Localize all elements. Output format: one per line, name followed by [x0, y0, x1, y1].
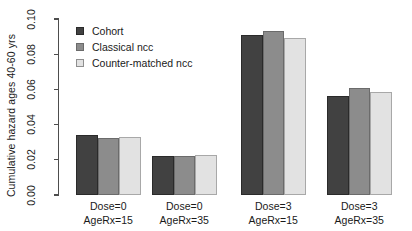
legend-item-classical-ncc[interactable]: Classical ncc: [76, 40, 192, 54]
legend-item-counter-matched-ncc[interactable]: Counter-matched ncc: [76, 56, 192, 70]
bar-classical-ncc-2[interactable]: [263, 31, 285, 195]
legend-swatch-icon: [76, 59, 84, 67]
legend-item-label: Counter-matched ncc: [92, 58, 192, 69]
x-axis-group-label: Dose=0AgeRx=35: [139, 199, 229, 227]
bar-counter-matched-ncc-2[interactable]: [284, 38, 306, 195]
y-tick-label-text: 0.10: [25, 0, 38, 42]
bar-group: [327, 19, 392, 195]
y-tick-label: 0.00: [8, 189, 54, 202]
bar-counter-matched-ncc-3[interactable]: [370, 92, 392, 195]
bar-group: [241, 19, 306, 195]
legend-item-cohort[interactable]: Cohort: [76, 24, 192, 38]
bar-cohort-1[interactable]: [152, 156, 174, 195]
legend-swatch-icon: [76, 43, 84, 51]
y-tick-mark: [54, 18, 59, 19]
x-axis-group-label-line-0: Dose=3: [314, 199, 404, 213]
legend: CohortClassical nccCounter-matched ncc: [76, 24, 192, 72]
legend-swatch-icon: [76, 27, 84, 35]
bar-counter-matched-ncc-0[interactable]: [119, 137, 141, 195]
y-tick-mark: [54, 124, 59, 125]
y-tick-label: 0.08: [8, 48, 54, 61]
x-axis-group-label-line-1: AgeRx=35: [314, 213, 404, 227]
y-tick-mark: [54, 54, 59, 55]
x-axis-group-label-line-0: Dose=3: [228, 199, 318, 213]
legend-item-label: Classical ncc: [92, 42, 153, 53]
y-tick-mark: [54, 89, 59, 90]
y-tick-mark: [54, 194, 59, 195]
bar-classical-ncc-3[interactable]: [349, 88, 371, 195]
y-tick-mark: [54, 159, 59, 160]
bar-cohort-3[interactable]: [327, 96, 349, 195]
legend-item-label: Cohort: [92, 26, 124, 37]
x-axis-group-label-line-1: AgeRx=35: [139, 213, 229, 227]
bar-cohort-2[interactable]: [241, 35, 263, 195]
x-axis-group-label: Dose=3AgeRx=15: [228, 199, 318, 227]
x-axis-group-label: Dose=3AgeRx=35: [314, 199, 404, 227]
x-axis-group-label-line-0: Dose=0: [139, 199, 229, 213]
bar-cohort-0[interactable]: [76, 135, 98, 195]
bar-chart: Cumulative hazard ages 40-60 yrs 0.000.0…: [0, 0, 412, 231]
bar-counter-matched-ncc-1[interactable]: [195, 155, 217, 195]
x-axis-group-label-line-1: AgeRx=15: [228, 213, 318, 227]
y-tick-label: 0.04: [8, 118, 54, 131]
y-tick-label: 0.02: [8, 153, 54, 166]
bar-classical-ncc-1[interactable]: [174, 156, 196, 195]
y-tick-label: 0.10: [8, 13, 54, 26]
y-tick-label: 0.06: [8, 83, 54, 96]
bar-classical-ncc-0[interactable]: [98, 138, 120, 195]
